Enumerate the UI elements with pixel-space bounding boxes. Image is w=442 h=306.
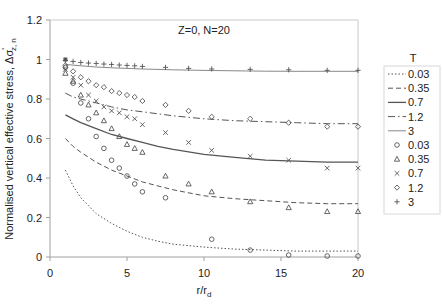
diamond-marker (109, 89, 114, 94)
legend-label: 1.2 (408, 182, 423, 194)
legend-label: 0.03 (408, 139, 429, 151)
start-square-marker (63, 58, 67, 62)
fitted-lines (65, 64, 358, 251)
triangle-marker (109, 126, 114, 131)
triangle-marker (78, 92, 83, 97)
x-marker (117, 111, 122, 116)
chart: 00.20.40.60.811.205101520 Z=0, N=20 r/rd… (0, 0, 442, 306)
chart-svg: 00.20.40.60.811.205101520 Z=0, N=20 r/rd… (0, 0, 442, 306)
marker-series-t-3 (63, 58, 361, 73)
y-tick-label: 1 (36, 54, 42, 66)
plus-marker (140, 64, 145, 69)
circle-marker (102, 146, 107, 151)
circle-marker (209, 237, 214, 242)
marker-series-t-1-2 (63, 63, 361, 129)
triangle-marker (94, 110, 99, 115)
x-marker (132, 116, 137, 121)
diamond-marker (140, 98, 145, 103)
diamond-marker (132, 94, 137, 99)
axes: 00.20.40.60.811.205101520 (27, 14, 364, 279)
diamond-marker (71, 69, 76, 74)
diamond-marker (94, 83, 99, 88)
plus-marker (117, 62, 122, 67)
line-series-t-0-03 (65, 170, 358, 251)
triangle-marker (140, 150, 145, 155)
diamond-marker (248, 116, 253, 121)
plus-marker (101, 61, 106, 66)
x-tick-label: 15 (275, 267, 287, 279)
diamond-marker (186, 108, 191, 113)
x-marker (79, 83, 84, 88)
circle-marker (86, 116, 91, 121)
triangle-marker (286, 205, 291, 210)
y-axis-label: Normalised vertical effective stress, Δσ… (0, 38, 18, 240)
diamond-marker (86, 79, 91, 84)
triangle-marker (124, 142, 129, 147)
diamond-marker (124, 92, 129, 97)
circle-marker (325, 254, 330, 259)
triangle-marker (86, 102, 91, 107)
plus-marker (325, 68, 330, 73)
y-tick-label: 1.2 (27, 14, 42, 26)
plus-marker (132, 63, 137, 68)
diamond-marker (117, 90, 122, 95)
diamond-marker (325, 124, 330, 129)
circle-marker (132, 182, 137, 187)
x-axis-label: r/rd (197, 284, 212, 299)
legend-label: 0.7 (408, 167, 423, 179)
diamond-marker (78, 75, 83, 80)
plus-marker (109, 62, 114, 67)
y-tick-label: 0.6 (27, 133, 42, 145)
x-marker (140, 122, 145, 127)
plus-marker (124, 63, 129, 68)
x-marker (102, 105, 107, 110)
x-marker (86, 93, 91, 98)
x-tick-label: 10 (198, 267, 210, 279)
circle-marker (163, 195, 168, 200)
x-tick-label: 5 (124, 267, 130, 279)
circle-marker (117, 166, 122, 171)
diamond-marker (101, 85, 106, 90)
triangle-marker (209, 189, 214, 194)
circle-marker (140, 190, 145, 195)
triangle-marker (132, 146, 137, 151)
legend: T0.030.350.71.230.030.350.71.23 (384, 52, 440, 214)
legend-label: 0.35 (408, 153, 429, 165)
triangle-marker (186, 181, 191, 186)
x-marker (125, 114, 130, 119)
plus-marker (94, 61, 99, 66)
y-tick-label: 0.8 (27, 93, 42, 105)
legend-title: T (410, 52, 417, 64)
legend-label: 0.03 (408, 68, 429, 80)
triangle-marker (101, 118, 106, 123)
legend-label: 3 (408, 196, 414, 208)
circle-marker (79, 101, 84, 106)
legend-label: 3 (408, 125, 414, 137)
y-tick-label: 0.4 (27, 172, 42, 184)
x-marker (186, 140, 191, 145)
plus-marker (78, 60, 83, 65)
circle-marker (94, 134, 99, 139)
y-tick-label: 0.2 (27, 212, 42, 224)
triangle-marker (163, 173, 168, 178)
x-marker (163, 130, 168, 135)
triangle-marker (325, 209, 330, 214)
marker-series-t-0-35 (63, 71, 361, 214)
plus-marker (86, 60, 91, 65)
x-tick-label: 0 (47, 267, 53, 279)
x-marker (209, 148, 214, 153)
plus-marker (71, 59, 76, 64)
circle-marker (109, 158, 114, 163)
plus-marker (355, 68, 360, 73)
line-series-t-0-7 (65, 115, 358, 162)
y-tick-label: 0 (36, 251, 42, 263)
diamond-marker (163, 102, 168, 107)
diamond-marker (209, 114, 214, 119)
x-marker (109, 109, 114, 114)
x-marker (325, 166, 330, 171)
data-markers (63, 58, 361, 259)
x-tick-label: 20 (352, 267, 364, 279)
legend-label: 1.2 (408, 111, 423, 123)
x-marker (286, 158, 291, 163)
chart-title: Z=0, N=20 (178, 24, 230, 36)
